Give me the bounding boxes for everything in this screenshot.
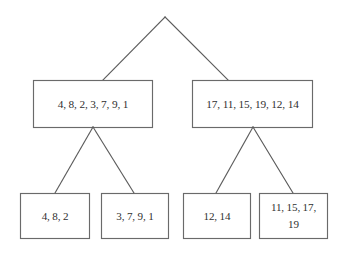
left-subtree-edges (55, 127, 134, 193)
node-leaf-two: 3, 7, 9, 1 (102, 194, 169, 239)
right-subtree-edges (216, 127, 293, 193)
node-leaf-three-label: 12, 14 (204, 210, 231, 222)
node-left-internal: 4, 8, 2, 3, 7, 9, 1 (34, 81, 153, 128)
node-right-internal-label: 17, 11, 15, 19, 12, 14 (206, 98, 299, 110)
edge-right-internal-to-leaf-three (216, 127, 253, 193)
node-leaf-one: 4, 8, 2 (21, 194, 90, 239)
edge-root-to-right-internal (165, 17, 228, 80)
edge-left-internal-to-leaf-two (93, 127, 134, 193)
tree-diagram-canvas: 4, 8, 2, 3, 7, 9, 1 17, 11, 15, 19, 12, … (0, 0, 344, 255)
node-leaf-one-label: 4, 8, 2 (42, 210, 69, 222)
node-left-internal-label: 4, 8, 2, 3, 7, 9, 1 (58, 98, 129, 110)
root-node (103, 17, 228, 80)
node-right-internal: 17, 11, 15, 19, 12, 14 (193, 81, 313, 128)
node-leaf-four-label-line-two: 19 (288, 218, 299, 230)
node-leaf-two-label: 3, 7, 9, 1 (116, 210, 153, 222)
merge-sort-tree: 4, 8, 2, 3, 7, 9, 1 17, 11, 15, 19, 12, … (0, 0, 344, 255)
edge-right-internal-to-leaf-four (253, 127, 293, 193)
node-leaf-three: 12, 14 (184, 194, 251, 239)
edge-left-internal-to-leaf-one (55, 127, 93, 193)
node-leaf-four-label-line-one: 11, 15, 17, (271, 201, 316, 213)
node-leaf-four: 11, 15, 17, 19 (260, 194, 328, 239)
edge-root-to-left-internal (103, 17, 165, 80)
